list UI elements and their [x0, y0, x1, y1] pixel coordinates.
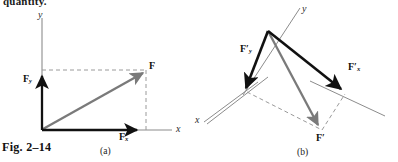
label-F-a-text: F	[149, 60, 155, 71]
panel-b-resultant-vector	[268, 31, 318, 125]
label-Fy-a: Fy	[23, 74, 32, 85]
panel-b-x-axis-left	[204, 82, 258, 122]
panel-a-graphics	[42, 18, 172, 130]
panel-b-x-axis-line	[206, 113, 384, 121]
panel-a-caption: (a)	[100, 146, 111, 156]
panel-b-dashed-right	[322, 94, 345, 130]
panel-b-right-axis	[310, 81, 385, 116]
figure-number-caption: Fig. 2–14	[2, 140, 51, 155]
label-Fx-b-subscript: x	[357, 65, 360, 72]
figure-page: quantity.	[0, 0, 398, 162]
label-F-prime-b: F′	[316, 133, 325, 143]
axis-label-y-a: y	[38, 10, 42, 20]
label-F-resultant-a: F	[149, 61, 155, 71]
panel-a-resultant-vector	[43, 73, 143, 129]
axis-label-x-b: x	[195, 115, 199, 125]
label-F-b-prime: ′	[322, 132, 325, 143]
panel-b-caption: (b)	[297, 147, 308, 157]
panel-b-x-component-vector	[268, 31, 341, 89]
axis-label-x-a: x	[176, 124, 180, 134]
label-Fx-prime-b: F′x	[348, 62, 360, 73]
panel-b-x-axis-right	[258, 82, 382, 112]
label-Fx-a-subscript: x	[125, 135, 128, 142]
panel-b-axis-x-full	[206, 78, 343, 121]
panel-b-left-axis	[207, 77, 268, 124]
axis-label-y-b: y	[302, 4, 306, 14]
label-Fx-a: Fx	[119, 132, 128, 143]
figure-vector-graphics	[0, 0, 398, 162]
label-Fy-a-subscript: y	[29, 77, 32, 84]
label-Fy-b-subscript: y	[249, 47, 252, 54]
label-Fy-prime-b: F′y	[240, 44, 252, 55]
